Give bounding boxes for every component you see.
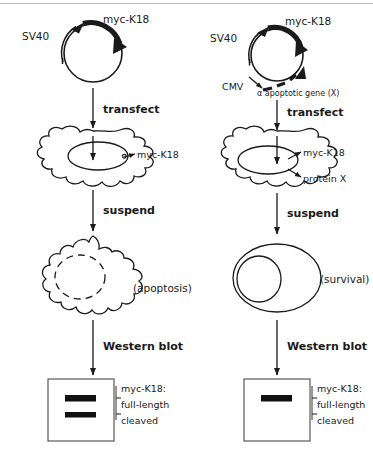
left-plasmid-gene-myc-k18: myc-K18 — [103, 14, 149, 25]
right-plasmid-promoter-sv40: SV40 — [210, 33, 237, 44]
left-blot-legend-title: myc-K18: — [121, 384, 166, 394]
left-adherent-cell — [37, 126, 153, 186]
left-plasmid-group — [62, 23, 127, 83]
right-plasmid-promoter-cmv: CMV — [222, 82, 243, 92]
left-plasmid-promoter-sv40: SV40 — [22, 31, 49, 42]
right-blot-legend-title: myc-K18: — [317, 384, 362, 394]
left-blot-legend-full-length: full-length — [121, 400, 169, 410]
right-cell-product-protein-x: protein X — [303, 174, 346, 184]
left-blot-legend-cleaved: cleaved — [121, 416, 158, 426]
band-full-length — [65, 395, 96, 402]
right-blot-legend-cleaved: cleaved — [317, 416, 354, 426]
left-step-western-blot: Western blot — [103, 341, 183, 352]
left-apoptotic-cell — [43, 236, 143, 314]
band-full-length — [261, 395, 292, 402]
right-blot-box — [244, 379, 317, 441]
right-blot-legend-full-length: full-length — [317, 400, 365, 410]
right-surviving-cell — [233, 244, 321, 312]
right-cell-product-myc-k18: myc-K18 — [303, 148, 345, 158]
band-cleaved — [65, 412, 96, 418]
left-cell-product-myc-k18: myc-K18 — [137, 150, 179, 160]
left-blot-box — [48, 379, 121, 441]
right-plasmid-group — [249, 27, 308, 91]
right-plasmid-gene-apoptotic-x: α apoptotic gene (X) — [257, 90, 339, 98]
left-step-transfect: transfect — [103, 104, 160, 115]
right-step-western-blot: Western blot — [287, 341, 367, 352]
right-step-transfect: transfect — [287, 107, 344, 118]
left-step-suspend: suspend — [103, 205, 155, 216]
right-step-suspend: suspend — [287, 208, 339, 219]
figure-canvas: SV40 myc-K18 transfect myc-K18 suspend (… — [0, 0, 373, 453]
right-outcome-survival: (survival) — [320, 274, 369, 285]
left-outcome-apoptosis: (apoptosis) — [133, 283, 192, 294]
right-plasmid-gene-myc-k18: myc-K18 — [285, 16, 331, 27]
